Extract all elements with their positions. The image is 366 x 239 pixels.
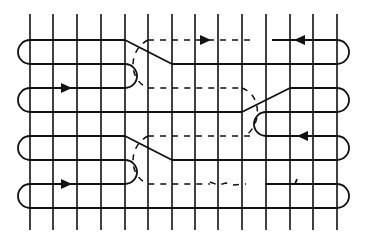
arrow-row-136-left-icon xyxy=(297,131,308,141)
right-bottom-loop-path xyxy=(294,184,349,208)
stitch-diagram xyxy=(0,0,366,239)
arrow-row-88-right-icon xyxy=(61,83,72,93)
diag-1-path xyxy=(125,40,337,64)
arrow-top-right-left-icon xyxy=(294,35,305,45)
dashed-scribble-path xyxy=(210,182,246,185)
row-112-left-path xyxy=(30,88,349,112)
row-136-path xyxy=(18,136,337,208)
arrow-top-dashed-right-icon xyxy=(200,35,211,45)
short-stroke-path xyxy=(265,179,297,184)
diagram-canvas xyxy=(0,0,366,239)
grid-lines xyxy=(30,14,337,230)
upper-left-block-path xyxy=(18,40,125,64)
arrow-row-184-right-icon xyxy=(61,179,72,189)
